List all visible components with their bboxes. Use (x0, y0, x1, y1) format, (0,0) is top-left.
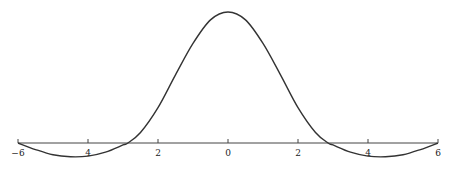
x-tick-label: −6 (11, 148, 25, 158)
x-tick-label: 2 (295, 148, 301, 158)
x-tick-label: 6 (435, 148, 441, 158)
x-tick-label: 2 (155, 148, 161, 158)
chart: −6420246 (0, 0, 450, 169)
x-ticks: −6420246 (11, 139, 441, 158)
data-line (18, 12, 438, 157)
x-tick-label: 0 (225, 148, 231, 158)
